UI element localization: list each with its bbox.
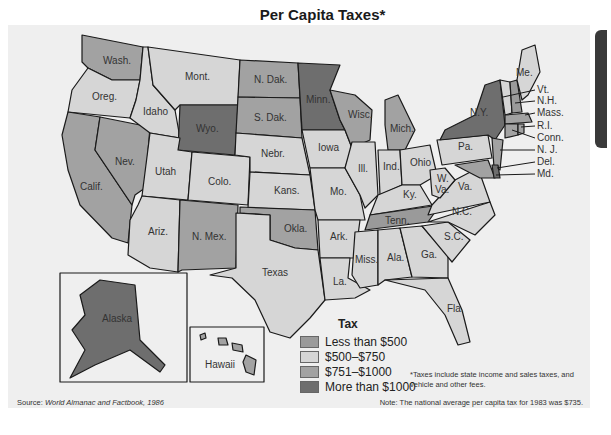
- label-conn: Conn.: [537, 132, 564, 143]
- label-nmex: N. Mex.: [192, 231, 226, 242]
- label-kans: Kans.: [274, 185, 300, 196]
- label-md: Md.: [537, 168, 554, 179]
- legend-swatch: [300, 351, 319, 363]
- label-wva: W.: [437, 173, 449, 184]
- label-wva-2: Va.: [435, 184, 449, 195]
- label-texas: Texas: [262, 267, 288, 278]
- label-iowa: Iowa: [318, 142, 340, 153]
- label-ohio: Ohio: [410, 157, 432, 168]
- label-la: La.: [333, 276, 347, 287]
- label-colo: Colo.: [208, 176, 231, 187]
- label-sc: S.C.: [444, 231, 463, 242]
- legend-swatch: [300, 366, 319, 378]
- label-ark: Ark.: [330, 231, 348, 242]
- source-citation: Source: World Almanac and Factbook, 1986: [17, 398, 164, 407]
- legend: Tax Less than $500 $500–$750 $751–$1000 …: [300, 317, 416, 394]
- label-wisc: Wisc.: [348, 109, 372, 120]
- source-title: World Almanac and Factbook, 1986: [45, 398, 164, 407]
- label-nebr: Nebr.: [261, 148, 285, 159]
- legend-item-high: More than $1000: [300, 379, 416, 394]
- footnote: *Taxes include state income and sales ta…: [410, 370, 580, 390]
- label-vt: Vt.: [537, 84, 549, 95]
- label-oreg: Oreg.: [92, 91, 117, 102]
- legend-swatch: [300, 336, 319, 348]
- label-mont: Mont.: [185, 71, 210, 82]
- state-hawaii-3: [232, 343, 243, 352]
- label-pa: Pa.: [458, 141, 473, 152]
- label-mass: Mass.: [537, 107, 564, 118]
- label-hawaii: Hawaii: [205, 359, 235, 370]
- note: Note: The national average per capita ta…: [380, 398, 583, 407]
- legend-label: $500–$750: [325, 350, 385, 364]
- legend-item-low: Less than $500: [300, 334, 416, 349]
- label-nev: Nev.: [115, 156, 135, 167]
- legend-item-mid-low: $500–$750: [300, 349, 416, 364]
- legend-title: Tax: [338, 317, 416, 331]
- label-ny: N.Y.: [470, 107, 488, 118]
- label-ky: Ky.: [403, 189, 417, 200]
- state-del: [492, 165, 500, 178]
- map-title: Per Capita Taxes*: [20, 6, 611, 23]
- label-alaska: Alaska: [102, 313, 132, 324]
- label-ariz: Ariz.: [148, 226, 168, 237]
- label-mich: Mich.: [390, 123, 414, 134]
- label-nj: N. J.: [537, 144, 558, 155]
- legend-label: Less than $500: [325, 335, 407, 349]
- source-prefix: Source:: [17, 398, 43, 407]
- legend-item-mid-high: $751–$1000: [300, 364, 416, 379]
- state-hawaii-1: [200, 333, 206, 340]
- legend-label: More than $1000: [325, 380, 416, 394]
- label-minn: Minn.: [306, 94, 330, 105]
- label-ga: Ga.: [421, 249, 437, 260]
- label-ind: Ind.: [383, 161, 400, 172]
- legend-label: $751–$1000: [325, 365, 392, 379]
- label-wash: Wash.: [103, 55, 131, 66]
- label-ala: Ala.: [387, 252, 404, 263]
- label-nc: N.C.: [452, 206, 472, 217]
- label-del: Del.: [537, 156, 555, 167]
- label-idaho: Idaho: [143, 106, 168, 117]
- label-tenn: Tenn.: [385, 215, 409, 226]
- label-ill: Ill.: [358, 163, 368, 174]
- label-nh: N.H.: [537, 95, 557, 106]
- label-okla: Okla.: [284, 223, 307, 234]
- label-ri: R.I.: [537, 120, 553, 131]
- label-wyo: Wyo.: [196, 123, 219, 134]
- legend-swatch: [300, 381, 319, 393]
- label-mo: Mo.: [330, 186, 347, 197]
- label-sdak: S. Dak.: [254, 112, 287, 123]
- label-me: Me.: [516, 67, 533, 78]
- label-va: Va.: [458, 181, 472, 192]
- label-miss: Miss.: [355, 254, 378, 265]
- label-fla: Fla.: [447, 303, 464, 314]
- label-ndak: N. Dak.: [254, 74, 287, 85]
- label-calif: Calif.: [80, 181, 103, 192]
- state-hawaii-2: [218, 338, 228, 345]
- label-utah: Utah: [155, 166, 176, 177]
